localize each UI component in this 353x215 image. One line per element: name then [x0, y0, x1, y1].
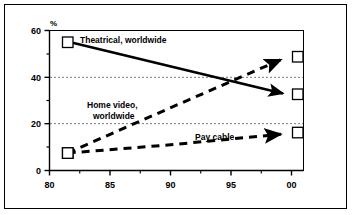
home-video-marker-end	[293, 52, 304, 63]
x-axis-labels: 80 85 90 95 00	[44, 180, 296, 190]
line-chart: 0 20 40 60 % 80 85 90 95 00	[0, 0, 353, 215]
x-axis-ticks	[50, 171, 292, 176]
x-tick-label-00: 00	[286, 180, 296, 190]
y-tick-label-40: 40	[31, 73, 41, 83]
annotation-home-video-line2: worldwide	[92, 111, 135, 121]
x-tick-label-95: 95	[226, 180, 236, 190]
x-tick-label-85: 85	[105, 180, 115, 190]
y-tick-label-60: 60	[31, 26, 41, 36]
y-axis-unit-label: %	[50, 19, 57, 28]
annotation-pay-cable: Pay cable	[195, 132, 234, 142]
annotation-theatrical: Theatrical, worldwide	[80, 35, 167, 45]
theatrical-marker-end	[293, 89, 304, 100]
y-tick-label-0: 0	[36, 166, 41, 176]
annotation-home-video-line1: Home video,	[87, 100, 138, 110]
y-tick-label-20: 20	[31, 119, 41, 129]
home-video-marker-start	[63, 148, 74, 159]
x-tick-label-90: 90	[165, 180, 175, 190]
y-axis-labels: 0 20 40 60	[31, 26, 41, 176]
y-axis-ticks	[45, 31, 50, 171]
chart-figure: 0 20 40 60 % 80 85 90 95 00	[0, 0, 353, 215]
theatrical-marker-start	[63, 37, 74, 48]
pay-cable-marker-end	[293, 127, 304, 138]
x-tick-label-80: 80	[44, 180, 54, 190]
